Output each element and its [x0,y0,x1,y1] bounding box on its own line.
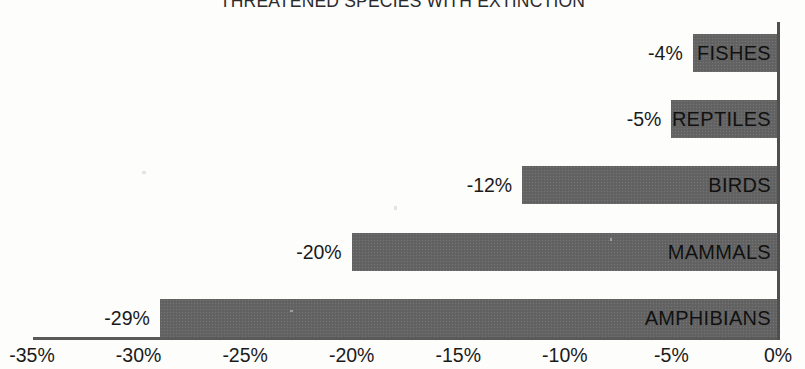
bar-reptiles[interactable]: REPTILES [671,100,778,138]
bar-chart: THREATENED SPECIES WITH EXTINCTION FISHE… [0,0,805,369]
scan-speckle [610,238,612,241]
x-tick-label: 0% [764,344,792,367]
bar-value-label: -12% [440,174,512,197]
bar-category-label: AMPHIBIANS [645,306,771,329]
scan-speckle [290,310,293,312]
plot-area: FISHES-4%REPTILES-5%BIRDS-12%MAMMALS-20%… [0,0,805,369]
bar-amphibians[interactable]: AMPHIBIANS [160,299,778,337]
bar-value-label: -4% [611,42,683,65]
bar-category-label: MAMMALS [668,240,771,263]
bar-row: BIRDS-12% [0,166,805,204]
x-tick-label: -30% [116,344,162,367]
bar-value-label: -5% [589,108,661,131]
scan-speckle [394,206,397,210]
bar-row: MAMMALS-20% [0,233,805,271]
x-tick-label: -5% [654,344,689,367]
x-tick-label: -15% [436,344,482,367]
bar-category-label: FISHES [697,42,771,65]
bar-category-label: REPTILES [672,108,771,131]
bar-value-label: -29% [78,306,150,329]
bar-category-label: BIRDS [708,174,771,197]
scan-speckle [142,171,146,174]
bar-row: REPTILES-5% [0,100,805,138]
bar-mammals[interactable]: MAMMALS [352,233,778,271]
bar-row: FISHES-4% [0,34,805,72]
bar-fishes[interactable]: FISHES [693,34,778,72]
x-axis-line [33,337,779,340]
x-tick-label: -10% [542,344,588,367]
x-tick-label: -25% [222,344,268,367]
bar-birds[interactable]: BIRDS [522,166,778,204]
bar-value-label: -20% [270,240,342,263]
zero-baseline-line [777,22,780,340]
x-tick-label: -35% [9,344,55,367]
x-tick-label: -20% [329,344,375,367]
bar-row: AMPHIBIANS-29% [0,299,805,337]
